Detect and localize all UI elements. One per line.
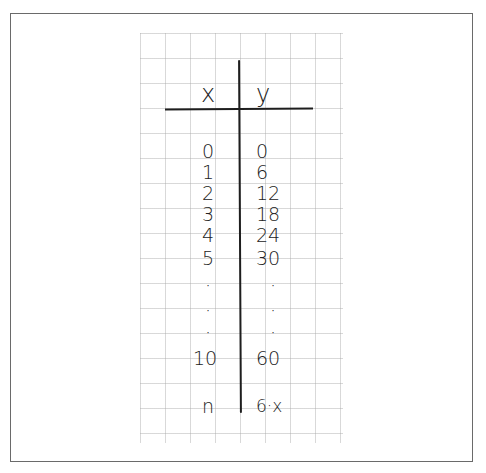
cell-y-ellipsis-1: ·	[270, 275, 276, 295]
header-y: y	[256, 84, 270, 104]
cell-x-0: 0	[196, 141, 220, 161]
cell-y-9: 6·x	[256, 396, 282, 416]
cell-x-3: 3	[196, 204, 220, 224]
cell-x-ellipsis-3: ·	[196, 322, 220, 342]
cell-y-ellipsis-2: ·	[270, 300, 276, 320]
cell-y-0: 0	[256, 141, 268, 161]
cell-y-2: 12	[256, 183, 280, 203]
cell-x-ellipsis-2: ·	[196, 300, 220, 320]
cell-y-5: 30	[256, 248, 280, 268]
header-x: x	[196, 84, 220, 104]
cell-x-9: n	[196, 396, 220, 416]
cell-x-1: 1	[196, 162, 220, 182]
cell-y-8: 60	[256, 348, 280, 368]
cell-y-4: 24	[256, 225, 280, 245]
cell-y-3: 18	[256, 204, 280, 224]
cell-x-8: 10	[193, 348, 217, 368]
cell-x-5: 5	[196, 248, 220, 268]
cell-x-ellipsis-1: ·	[196, 275, 220, 295]
cell-y-1: 6	[256, 162, 268, 182]
cell-x-4: 4	[196, 225, 220, 245]
cell-x-2: 2	[196, 183, 220, 203]
cell-y-ellipsis-3: ·	[270, 322, 276, 342]
